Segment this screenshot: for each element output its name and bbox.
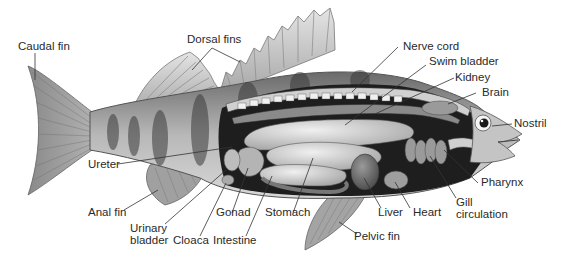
fish-anatomy-diagram <box>0 0 562 261</box>
label-nerve-cord: Nerve cord <box>403 40 459 53</box>
label-gonad: Gonad <box>216 206 251 219</box>
label-stomach: Stomach <box>265 206 310 219</box>
label-nostril: Nostril <box>514 117 547 130</box>
label-pharynx: Pharynx <box>481 176 523 189</box>
label-intestine: Intestine <box>213 234 256 247</box>
label-brain: Brain <box>482 86 509 99</box>
cloaca <box>222 175 234 185</box>
label-anal-fin: Anal fin <box>88 206 126 219</box>
brain <box>422 101 458 115</box>
heart <box>384 171 408 189</box>
liver <box>351 154 379 190</box>
label-ureter: Ureter <box>88 158 120 171</box>
caudal-fin <box>28 66 92 195</box>
label-urinary-bladder-2: bladder <box>130 234 168 247</box>
label-caudal-fin: Caudal fin <box>18 40 70 53</box>
label-gill-circulation-2: circulation <box>456 208 508 221</box>
label-dorsal-fins: Dorsal fins <box>187 33 241 46</box>
label-pelvic-fin: Pelvic fin <box>354 230 400 243</box>
label-cloaca: Cloaca <box>173 234 209 247</box>
fish-head <box>470 106 522 163</box>
urinary-bladder <box>224 149 240 171</box>
label-kidney: Kidney <box>455 71 490 84</box>
label-swim-bladder: Swim bladder <box>429 55 499 68</box>
label-heart: Heart <box>413 206 441 219</box>
label-liver: Liver <box>378 206 403 219</box>
